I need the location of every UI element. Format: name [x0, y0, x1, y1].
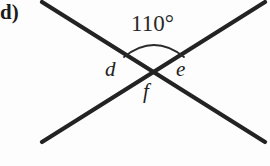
angle-variable-e: e [176, 58, 185, 80]
angle-arc [124, 45, 184, 57]
angle-diagram-figure: d) 110° d e f [0, 0, 270, 166]
part-label: d) [0, 0, 19, 24]
angle-variable-d: d [105, 58, 116, 80]
angle-measure-label: 110° [131, 11, 174, 37]
angle-variable-f: f [143, 80, 149, 102]
